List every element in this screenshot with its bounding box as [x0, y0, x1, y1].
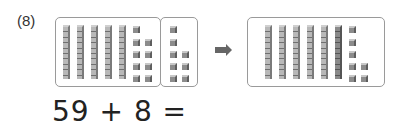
one-cube — [170, 26, 177, 33]
one-cube — [349, 51, 356, 58]
one-cube — [133, 75, 140, 82]
one-cube — [133, 51, 140, 58]
left-group-box — [55, 17, 161, 87]
one-cube — [133, 39, 140, 46]
ten-rod — [293, 25, 300, 79]
problem-number: (8) — [17, 12, 35, 29]
one-cube — [145, 39, 152, 46]
one-cube — [170, 51, 177, 58]
right-arrow-icon — [215, 47, 227, 53]
ten-rod — [321, 25, 328, 79]
ten-rod — [307, 25, 314, 79]
ten-rod — [279, 25, 286, 79]
one-cube — [182, 51, 189, 58]
one-cube — [133, 26, 140, 33]
result-group-box — [247, 17, 385, 87]
ten-rod — [63, 25, 70, 79]
one-cube — [349, 26, 356, 33]
one-cube — [349, 39, 356, 46]
one-cube — [145, 63, 152, 70]
ten-rod — [77, 25, 84, 79]
one-cube — [361, 63, 368, 70]
one-cube — [349, 75, 356, 82]
one-cube — [361, 75, 368, 82]
one-cube — [133, 63, 140, 70]
one-cube — [145, 51, 152, 58]
one-cube — [170, 75, 177, 82]
added-group-box — [160, 17, 198, 87]
ten-rod — [265, 25, 272, 79]
ten-rod — [119, 25, 126, 79]
one-cube — [182, 75, 189, 82]
new-ten-rod — [335, 25, 342, 79]
one-cube — [182, 63, 189, 70]
one-cube — [349, 63, 356, 70]
ten-rod — [105, 25, 112, 79]
one-cube — [170, 39, 177, 46]
one-cube — [170, 63, 177, 70]
one-cube — [145, 75, 152, 82]
ten-rod — [91, 25, 98, 79]
equation: 59 + 8 = — [52, 95, 187, 128]
